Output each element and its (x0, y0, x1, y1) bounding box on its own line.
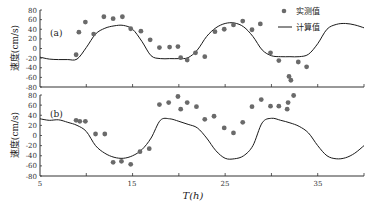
measured-point (111, 160, 116, 165)
measured-point (93, 132, 98, 137)
panel-b: 806040200-20-40-60-80 (26, 92, 364, 181)
x-axis-label: T(h) (183, 190, 204, 201)
measured-point (291, 93, 296, 98)
y-axis-label-bottom: 速度(cm/s) (9, 112, 20, 158)
y-tick-label: -80 (26, 84, 37, 92)
y-tick-label: 60 (28, 16, 37, 24)
y-tick-label: 0 (33, 45, 37, 53)
y-axis-label-top: 速度(cm/s) (9, 25, 20, 71)
legend-label-measured: 实测值 (296, 6, 320, 16)
y-tick-label: -20 (26, 142, 37, 150)
y-tick-label: 80 (28, 7, 37, 15)
measured-point (77, 119, 82, 124)
measured-point (268, 50, 273, 55)
measured-point (286, 100, 291, 105)
measured-point (231, 23, 236, 28)
measured-point (148, 37, 153, 42)
legend-marker-measured (282, 9, 287, 14)
measured-point (120, 14, 125, 19)
measured-point (102, 132, 107, 137)
panel-a-label: (a) (50, 28, 62, 38)
measured-point (193, 50, 198, 55)
y-tick-label: 40 (28, 112, 37, 120)
y-tick-label: 20 (28, 122, 37, 130)
measured-point (74, 52, 79, 57)
x-tick-5: 5 (38, 180, 42, 188)
measured-point (128, 162, 133, 167)
measured-point (240, 19, 245, 24)
panel-b-label: (b) (50, 109, 63, 119)
measured-point (76, 30, 81, 35)
x-tick-25: 25 (221, 180, 230, 188)
measured-point (111, 16, 116, 21)
measured-point (276, 58, 281, 63)
measured-point (304, 64, 309, 69)
measured-point (101, 14, 106, 19)
measured-point (166, 100, 171, 105)
measured-point (83, 119, 88, 124)
y-tick-label: 20 (28, 35, 37, 43)
calculated-line-b (40, 118, 364, 159)
measured-point (231, 131, 236, 136)
y-tick-label: -20 (26, 55, 37, 63)
legend: 实测值 计算值 (278, 6, 320, 32)
measured-point (178, 55, 183, 60)
measured-point (178, 107, 183, 112)
measured-point (222, 126, 227, 131)
measured-point (213, 29, 218, 34)
measured-point (119, 159, 124, 164)
y-tick-label: 80 (28, 92, 37, 100)
velocity-chart: 806040200-20-40-60-80 806040200-20-40-60… (0, 0, 369, 204)
measured-point (157, 45, 162, 50)
legend-label-calculated: 计算值 (296, 22, 320, 32)
y-tick-label: -60 (26, 74, 37, 82)
measured-point (176, 94, 181, 99)
y-tick-label: 0 (33, 132, 37, 140)
measured-point (240, 120, 245, 125)
measured-point (285, 107, 290, 112)
x-tick-35: 35 (314, 180, 323, 188)
measured-point (83, 20, 88, 25)
y-tick-label: 60 (28, 102, 37, 110)
measured-point (296, 60, 301, 65)
measured-point (138, 149, 143, 154)
measured-point (202, 54, 207, 59)
measured-point (288, 78, 293, 83)
measured-point (222, 27, 227, 32)
measured-point (91, 32, 96, 37)
measured-point (202, 117, 207, 122)
panel-a: 806040200-20-40-60-80 (26, 7, 364, 92)
y-tick-label: -40 (26, 64, 37, 72)
y-tick-label: -40 (26, 152, 37, 160)
measured-point (147, 146, 152, 151)
measured-point (185, 58, 190, 63)
y-tick-label: -80 (26, 173, 37, 181)
measured-point (250, 104, 255, 109)
measured-point (276, 104, 281, 109)
y-tick-label: 40 (28, 26, 37, 34)
measured-point (194, 104, 199, 109)
measured-point (185, 100, 190, 105)
measured-point (176, 44, 181, 49)
measured-point (212, 114, 217, 119)
measured-point (259, 97, 264, 102)
measured-point (167, 45, 172, 50)
measured-point (258, 22, 263, 27)
y-tick-label: -60 (26, 162, 37, 170)
measured-point (128, 26, 133, 31)
measured-point (250, 27, 255, 32)
x-tick-15: 15 (128, 180, 137, 188)
measured-point (268, 104, 273, 109)
measured-point (157, 102, 162, 107)
measured-point (139, 29, 144, 34)
